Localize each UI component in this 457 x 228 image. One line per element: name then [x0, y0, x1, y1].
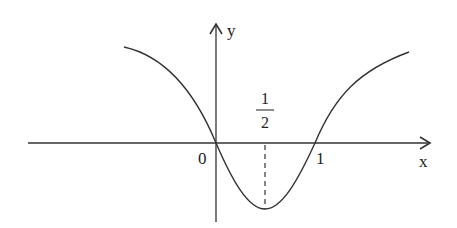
function-graph: y x 0 1 1 2: [0, 0, 457, 228]
fraction-numerator: 1: [261, 90, 269, 107]
x-axis-label: x: [419, 152, 428, 171]
y-axis-label: y: [227, 21, 236, 40]
origin-label: 0: [198, 149, 207, 168]
tick-label-one: 1: [316, 149, 325, 168]
fraction-denominator: 2: [261, 114, 269, 131]
